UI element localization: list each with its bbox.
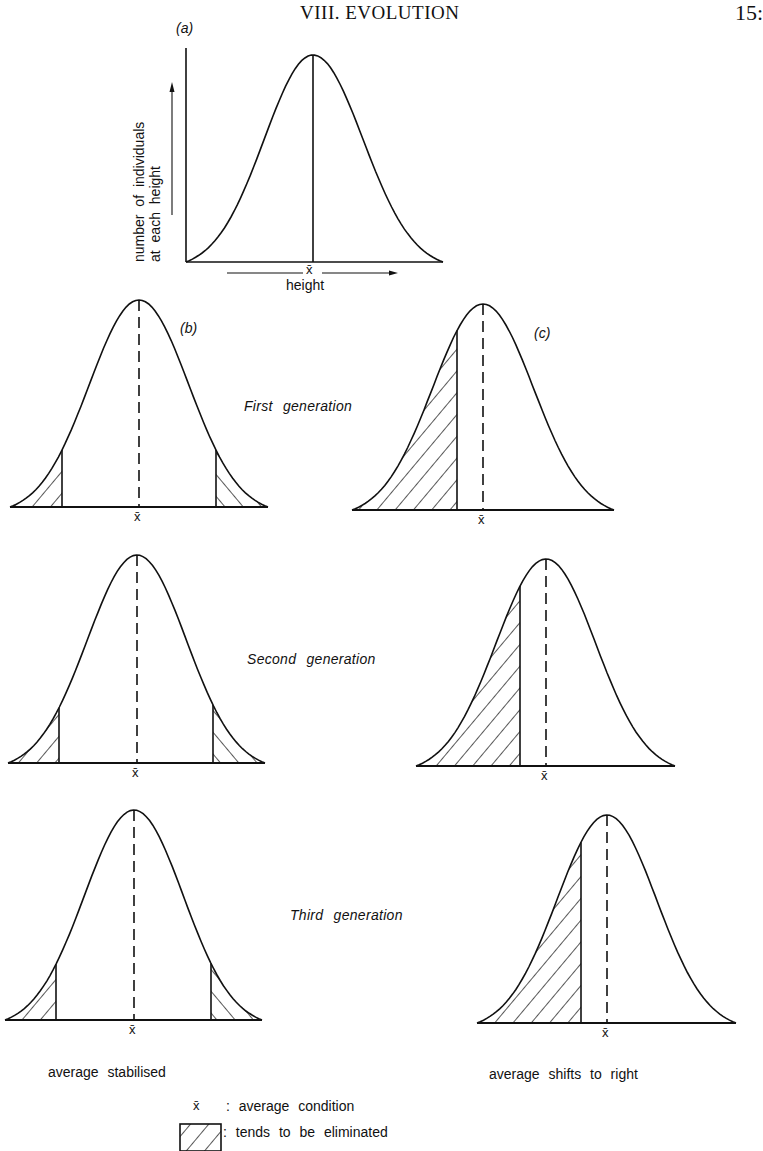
- curve-outline: [186, 55, 443, 262]
- eliminated-region-left: [8, 708, 59, 763]
- legend-hatch-swatch: [180, 1124, 221, 1151]
- distribution-curve-b-gen3: [5, 810, 262, 1020]
- distribution-curve-c-gen1: [352, 304, 614, 510]
- distribution-curve-b-gen1: [10, 300, 268, 507]
- eliminated-region-right: [211, 963, 262, 1020]
- eliminated-region-left: [10, 450, 62, 507]
- distribution-curve-c-gen2: [416, 559, 675, 766]
- panel-a-axes: [170, 48, 444, 276]
- eliminated-region-left: [477, 842, 581, 1023]
- eliminated-region-left: [416, 586, 520, 766]
- distribution-curve-b-gen2: [8, 555, 265, 763]
- eliminated-region-left: [5, 964, 56, 1020]
- eliminated-region-right: [216, 450, 268, 507]
- eliminated-region-left: [352, 331, 457, 510]
- distribution-curve-c-gen3: [477, 815, 736, 1023]
- eliminated-region-right: [213, 705, 265, 763]
- distribution-curve-a: [186, 55, 443, 262]
